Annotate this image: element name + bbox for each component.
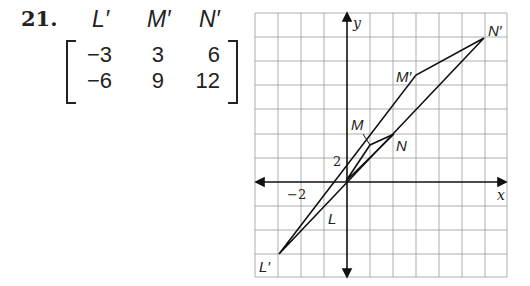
axes	[256, 13, 506, 277]
y-axis-label: y	[352, 15, 362, 31]
point-label-l: L	[328, 210, 336, 227]
point-label-n-prime: N′	[488, 22, 503, 39]
point-label-n: N	[396, 137, 407, 154]
x-axis-label: x	[497, 187, 505, 203]
point-label-m-prime: M′	[396, 68, 412, 85]
triangles	[279, 38, 484, 254]
y-tick-label: 2	[333, 154, 341, 169]
point-label-l-prime: L′	[259, 258, 271, 275]
x-tick-label: −2	[287, 187, 306, 202]
point-label-m: M	[351, 116, 364, 133]
coordinate-graph: y x 2 −2 L M N L′ M′ N′	[0, 0, 530, 286]
triangle-l-prime-m-prime-n-prime	[279, 38, 484, 254]
